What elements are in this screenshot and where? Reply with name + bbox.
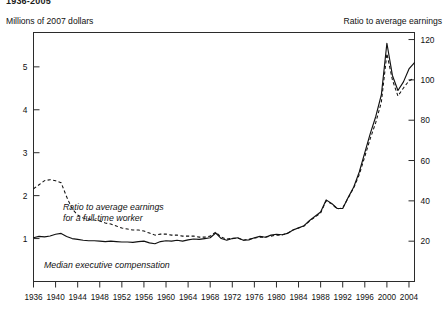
plot-frame (34, 33, 415, 282)
svg-text:120: 120 (421, 35, 435, 45)
svg-text:1984: 1984 (289, 293, 308, 302)
svg-text:1996: 1996 (356, 293, 375, 302)
svg-text:80: 80 (421, 115, 431, 125)
svg-text:5: 5 (23, 62, 28, 72)
svg-text:2000: 2000 (378, 293, 397, 302)
left-axis-ticks: 12345 (23, 62, 40, 244)
svg-text:1936: 1936 (24, 293, 43, 302)
annotation-ratio-line-1: Ratio to average earnings (63, 202, 164, 212)
svg-text:1972: 1972 (223, 293, 242, 302)
annotation-median-exec-comp: Median executive compensation (44, 260, 170, 270)
svg-text:2: 2 (23, 191, 28, 201)
svg-text:1976: 1976 (245, 293, 264, 302)
svg-text:1980: 1980 (267, 293, 286, 302)
svg-text:1: 1 (23, 234, 28, 244)
figure-title: 1936-2005 (6, 0, 51, 6)
svg-text:1956: 1956 (135, 293, 154, 302)
svg-text:1948: 1948 (91, 293, 110, 302)
svg-text:1964: 1964 (179, 293, 198, 302)
svg-text:2004: 2004 (400, 293, 419, 302)
svg-text:1952: 1952 (113, 293, 132, 302)
right-axis-ticks: 20406080100120 (409, 35, 435, 247)
annotation-ratio-line-2: for a full-time worker (63, 213, 144, 223)
svg-text:40: 40 (421, 196, 431, 206)
chart-plot-area: 12345 20406080100120 1936194019441948195… (0, 0, 448, 314)
right-axis-title: Ratio to average earnings (344, 16, 442, 26)
svg-text:20: 20 (421, 236, 431, 246)
svg-text:3: 3 (23, 148, 28, 158)
svg-text:60: 60 (421, 156, 431, 166)
svg-text:100: 100 (421, 75, 435, 85)
svg-text:1940: 1940 (46, 293, 65, 302)
svg-text:1988: 1988 (312, 293, 331, 302)
svg-text:1960: 1960 (157, 293, 176, 302)
x-axis-ticks: 1936194019441948195219561960196419681972… (24, 282, 418, 302)
svg-text:1968: 1968 (201, 293, 220, 302)
svg-text:1992: 1992 (334, 293, 353, 302)
svg-text:4: 4 (23, 105, 28, 115)
left-axis-title: Millions of 2007 dollars (6, 16, 93, 26)
figure-container: 1936-2005 Millions of 2007 dollars Ratio… (0, 0, 448, 314)
svg-text:1944: 1944 (69, 293, 88, 302)
